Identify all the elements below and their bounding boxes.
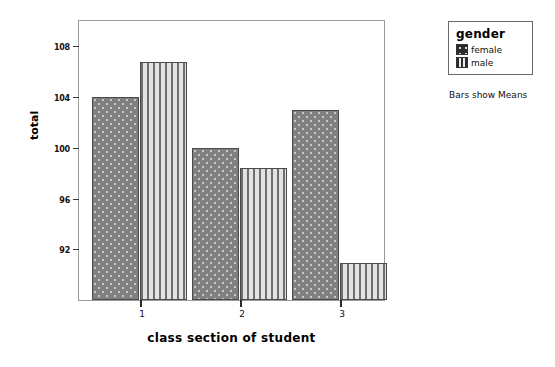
bar-male-section-3 <box>340 263 387 300</box>
y-tick-100: 100 <box>73 148 79 149</box>
striped-swatch-icon <box>456 57 468 68</box>
plot-frame: 108 104 100 96 92 <box>78 20 385 301</box>
legend-label-male: male <box>471 58 493 68</box>
x-tick-2: 2 <box>240 300 242 307</box>
x-tick-label-1: 1 <box>139 309 145 319</box>
legend-title: gender <box>456 27 526 41</box>
legend-label-female: female <box>471 45 502 55</box>
bar-female-section-1 <box>92 97 139 300</box>
y-tick-label-108: 108 <box>54 43 70 52</box>
legend: gender female male <box>448 21 533 75</box>
bar-chart: total 108 104 100 96 92 <box>0 0 420 367</box>
y-tick-label-92: 92 <box>59 246 70 255</box>
bar-female-section-3 <box>292 110 339 300</box>
y-tick-label-104: 104 <box>54 94 70 103</box>
chart-footnote: Bars show Means <box>449 90 527 100</box>
legend-item-female: female <box>456 44 526 55</box>
y-tick-label-100: 100 <box>54 144 70 153</box>
y-tick-92: 92 <box>73 249 79 250</box>
x-axis-title: class section of student <box>78 331 385 345</box>
y-tick-label-96: 96 <box>59 195 70 204</box>
y-tick-96: 96 <box>73 199 79 200</box>
legend-item-male: male <box>456 57 526 68</box>
x-tick-3: 3 <box>340 300 342 307</box>
x-tick-label-3: 3 <box>339 309 345 319</box>
dotted-swatch-icon <box>456 44 468 55</box>
bar-male-section-1 <box>140 62 187 300</box>
y-tick-104: 104 <box>73 97 79 98</box>
y-tick-108: 108 <box>73 46 79 47</box>
x-tick-1: 1 <box>140 300 142 307</box>
plot-area: 108 104 100 96 92 <box>79 21 384 300</box>
bar-female-section-2 <box>192 148 239 300</box>
x-tick-label-2: 2 <box>239 309 245 319</box>
y-axis-title: total <box>28 111 41 140</box>
bar-male-section-2 <box>240 168 287 300</box>
